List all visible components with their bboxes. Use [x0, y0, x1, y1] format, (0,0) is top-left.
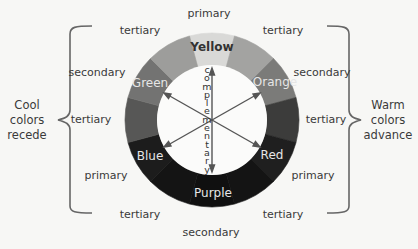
label-mid-right-tertiary: tertiary: [306, 113, 347, 126]
label-top-left-tertiary: tertiary: [120, 24, 161, 37]
label-bottom-right-tertiary: tertiary: [263, 208, 304, 221]
warm-line1: Warm: [364, 98, 413, 113]
warm-line2: colors: [364, 113, 413, 128]
wheel-label-orange: Orange: [253, 75, 297, 89]
wheel-label-blue: Blue: [137, 149, 164, 163]
warm-line3: advance: [364, 128, 413, 143]
cool-line2: colors: [7, 113, 46, 128]
warm-colors-label: Warm colors advance: [364, 98, 413, 143]
wheel-label-yellow: Yellow: [190, 40, 233, 54]
wheel-label-green: Green: [132, 76, 168, 90]
wheel-label-red: Red: [261, 148, 284, 162]
label-bottom-left-tertiary: tertiary: [120, 208, 161, 221]
label-top-primary: primary: [187, 7, 230, 20]
cool-colors-label: Cool colors recede: [7, 98, 46, 143]
label-bottom-secondary: secondary: [182, 226, 239, 239]
letter: y: [202, 166, 212, 174]
label-lower-right-primary: primary: [291, 169, 334, 182]
label-mid-left-tertiary: tertiary: [71, 113, 112, 126]
complementary-label: c o m p l e m e n t a r y: [202, 66, 212, 174]
label-top-right-tertiary: tertiary: [263, 24, 304, 37]
label-lower-left-primary: primary: [84, 169, 127, 182]
label-upper-left-secondary: secondary: [68, 66, 125, 79]
cool-line3: recede: [7, 128, 46, 143]
label-upper-right-secondary: secondary: [293, 66, 350, 79]
cool-line1: Cool: [7, 98, 46, 113]
wheel-label-purple: Purple: [194, 186, 232, 200]
